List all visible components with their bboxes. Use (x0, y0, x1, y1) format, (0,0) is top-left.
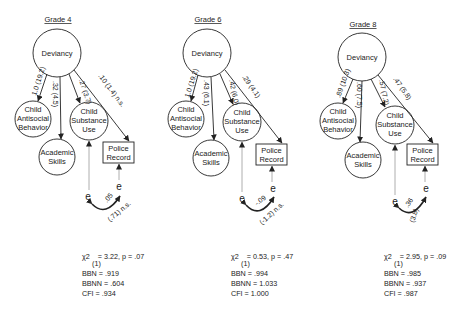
svg-text:Record: Record (106, 153, 130, 162)
node-child-antisocial-behavior: Child Antisocial Behavior (320, 103, 356, 139)
bbn-value: BBN = .994 (231, 269, 293, 279)
node-child-antisocial-behavior: Child Antisocial Behavior (168, 101, 204, 137)
node-child-substance-use: Child Substance Use (376, 106, 414, 144)
node-academic-skills: Academic Skills (193, 140, 229, 176)
coef-deviancy-academic: .43 (6.1) (202, 80, 210, 106)
bbnn-value: BBNN = .604 (82, 279, 144, 289)
coef-deviancy-substance: .42 (6.0) (227, 79, 240, 106)
svg-text:Use: Use (82, 125, 95, 134)
error-cov-value: .36 (403, 196, 414, 208)
svg-text:Academic: Academic (347, 151, 380, 160)
svg-text:Child: Child (177, 105, 194, 114)
coef-deviancy-police: .29 (4.1) (240, 74, 262, 100)
coef-deviancy-antisocial: .89 (10.3) (334, 68, 352, 99)
node-police-record: Police Record (103, 142, 134, 163)
error-substance: e (85, 191, 91, 202)
svg-text:Use: Use (235, 126, 248, 135)
svg-text:Substance: Substance (71, 116, 106, 125)
svg-text:Behavior: Behavior (18, 123, 48, 132)
path-deviancy-to-academic (211, 77, 214, 140)
bbnn-value: BBNN = 1.033 (231, 279, 293, 289)
chi-square-line: χ2 = 3.22, p = .07 (1) (82, 252, 144, 269)
coef-deviancy-police: .47 (5.8) (391, 76, 413, 102)
cfi-value: CFI = 1.000 (231, 289, 293, 299)
error-cov-t: (3.8) (408, 207, 420, 223)
svg-text:Child: Child (24, 105, 41, 114)
coef-deviancy-academic: .32 (4.5) (51, 81, 59, 107)
svg-text:Academic: Academic (41, 148, 74, 157)
coef-deviancy-academic: .60 (7.5) (355, 82, 363, 108)
node-police-record: Police Record (256, 144, 287, 165)
node-academic-skills: Academic Skills (39, 139, 75, 175)
node-child-substance-use: Child Substance Use (70, 102, 108, 140)
bbnn-value: BBNN = .937 (384, 279, 446, 289)
svg-text:Antisocial: Antisocial (17, 114, 49, 123)
error-cov-t: (.71) n.s. (106, 200, 132, 224)
svg-text:Skills: Skills (354, 160, 372, 169)
svg-text:Child: Child (386, 111, 403, 120)
error-substance: e (392, 196, 398, 207)
panel-title: Grade 4 (44, 15, 71, 24)
svg-text:Deviancy: Deviancy (347, 53, 378, 62)
chi-square-line: χ2 = 0.53, p = .47 (1) (231, 252, 293, 269)
panel-grade-6: Grade 6 Deviancy Child Antisocial Behavi… (168, 15, 287, 226)
svg-text:Substance: Substance (377, 120, 412, 129)
path-deviancy-to-academic (60, 77, 61, 139)
path-deviancy-to-substance (69, 74, 80, 103)
panel-grade-4: Grade 4 Deviancy Child Antisocial Behavi… (15, 15, 134, 224)
svg-text:Child: Child (233, 108, 250, 117)
chi-square-line: χ2 = 2.95, p = .09 (1) (384, 252, 446, 269)
svg-text:Police: Police (412, 146, 432, 155)
panel-grade-8: Grade 8 Deviancy Child Antisocial Behavi… (320, 20, 438, 224)
node-academic-skills: Academic Skills (345, 142, 381, 178)
svg-text:Skills: Skills (202, 158, 220, 167)
coef-deviancy-substance: .57 (7.2) (377, 79, 390, 106)
cfi-value: CFI = .934 (82, 289, 144, 299)
svg-text:Behavior: Behavior (171, 123, 201, 132)
svg-text:Child: Child (329, 107, 346, 116)
node-deviancy: Deviancy (183, 29, 231, 77)
svg-text:Behavior: Behavior (323, 125, 353, 134)
cfi-value: CFI = .987 (384, 289, 446, 299)
svg-text:Police: Police (261, 146, 281, 155)
svg-text:Skills: Skills (48, 157, 66, 166)
svg-text:Deviancy: Deviancy (192, 49, 223, 58)
bbn-value: BBN = .919 (82, 269, 144, 279)
svg-text:Child: Child (80, 107, 97, 116)
coef-deviancy-police: .10 (1.4) n.s. (96, 72, 126, 108)
svg-text:Antisocial: Antisocial (322, 116, 354, 125)
coef-deviancy-antisocial: 1.0 (19.2) (183, 68, 200, 99)
svg-text:Antisocial: Antisocial (170, 114, 202, 123)
panel-title: Grade 8 (349, 20, 376, 29)
svg-text:Use: Use (388, 129, 401, 138)
node-police-record: Police Record (407, 144, 438, 165)
svg-text:Deviancy: Deviancy (42, 49, 73, 58)
svg-text:Police: Police (108, 144, 128, 153)
error-cov-value: .05 (102, 192, 114, 204)
node-child-antisocial-behavior: Child Antisocial Behavior (15, 101, 51, 137)
error-cov-value: -.09 (253, 194, 267, 207)
error-cov-t: (-1.2) n.s. (258, 200, 286, 226)
svg-text:Record: Record (410, 155, 434, 164)
error-police: e (423, 183, 429, 194)
error-police: e (116, 181, 122, 192)
svg-text:Substance: Substance (224, 117, 259, 126)
fit-stats-grade-4: χ2 = 3.22, p = .07 (1) BBN = .919 BBNN =… (82, 252, 144, 299)
fit-stats-grade-8: χ2 = 2.95, p = .09 (1) BBN = .985 BBNN =… (384, 252, 446, 299)
error-substance: e (239, 193, 245, 204)
panel-title: Grade 6 (194, 15, 221, 24)
bbn-value: BBN = .985 (384, 269, 446, 279)
svg-text:Academic: Academic (195, 149, 228, 158)
svg-text:Record: Record (259, 155, 283, 164)
fit-stats-grade-6: χ2 = 0.53, p = .47 (1) BBN = .994 BBNN =… (231, 252, 293, 299)
error-police: e (270, 183, 276, 194)
